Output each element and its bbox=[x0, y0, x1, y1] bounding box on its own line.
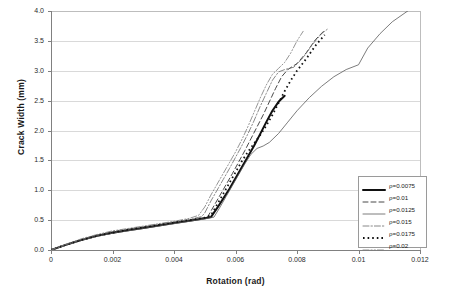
x-tick-mark bbox=[113, 251, 114, 254]
x-tick-label: 0 bbox=[31, 256, 71, 263]
legend-swatch-icon bbox=[362, 217, 386, 227]
legend-label: ρ=0.0125 bbox=[389, 206, 415, 213]
legend-swatch-icon bbox=[362, 181, 386, 191]
series-line-4 bbox=[51, 35, 325, 250]
legend-label: ρ=0.015 bbox=[389, 218, 412, 225]
x-axis-title: Rotation (rad) bbox=[51, 276, 420, 286]
x-tick-mark bbox=[297, 251, 298, 254]
y-tick-label: 2.0 bbox=[14, 127, 44, 134]
y-tick-label: 3.5 bbox=[14, 37, 44, 44]
y-tick-label: 1.0 bbox=[14, 186, 44, 193]
legend-label: ρ=0.0075 bbox=[389, 182, 415, 189]
crack-width-rotation-chart: Crack Width (mm) Rotation (rad) 0.00.51.… bbox=[0, 0, 450, 295]
x-tick-mark bbox=[420, 251, 421, 254]
y-tick-label: 0.5 bbox=[14, 216, 44, 223]
y-tick-label: 0.0 bbox=[14, 246, 44, 253]
legend-item[interactable]: ρ=0.015 bbox=[359, 216, 426, 227]
x-tick-mark bbox=[51, 251, 52, 254]
legend-swatch-icon bbox=[362, 205, 386, 215]
y-tick-label: 4.0 bbox=[14, 7, 44, 14]
legend-swatch-icon bbox=[362, 229, 386, 239]
series-line-2 bbox=[51, 11, 408, 250]
x-tick-mark bbox=[236, 251, 237, 254]
x-tick-mark bbox=[174, 251, 175, 254]
legend-swatch-icon bbox=[362, 241, 386, 251]
legend-label: ρ=0.01 bbox=[389, 194, 408, 201]
y-tick-label: 2.5 bbox=[14, 97, 44, 104]
x-tick-label: 0.008 bbox=[277, 256, 317, 263]
legend-item[interactable]: ρ=0.0175 bbox=[359, 228, 426, 239]
legend: ρ=0.0075ρ=0.01ρ=0.0125ρ=0.015ρ=0.0175ρ=0… bbox=[358, 176, 427, 248]
x-tick-label: 0.004 bbox=[154, 256, 194, 263]
x-tick-label: 0.006 bbox=[216, 256, 256, 263]
series-line-0 bbox=[51, 96, 285, 250]
legend-swatch-icon bbox=[362, 193, 386, 203]
legend-item[interactable]: ρ=0.0075 bbox=[359, 180, 426, 191]
y-tick-label: 3.0 bbox=[14, 67, 44, 74]
x-tick-label: 0.01 bbox=[339, 256, 379, 263]
series-line-3 bbox=[51, 29, 328, 250]
legend-label: ρ=0.0175 bbox=[389, 230, 415, 237]
series-line-5 bbox=[51, 31, 303, 250]
x-tick-label: 0.012 bbox=[400, 256, 440, 263]
legend-item[interactable]: ρ=0.02 bbox=[359, 240, 426, 251]
legend-label: ρ=0.02 bbox=[389, 242, 408, 249]
y-tick-label: 1.5 bbox=[14, 156, 44, 163]
legend-item[interactable]: ρ=0.01 bbox=[359, 192, 426, 203]
x-tick-mark bbox=[359, 251, 360, 254]
series-line-1 bbox=[51, 30, 325, 250]
x-tick-label: 0.002 bbox=[93, 256, 133, 263]
legend-item[interactable]: ρ=0.0125 bbox=[359, 204, 426, 215]
